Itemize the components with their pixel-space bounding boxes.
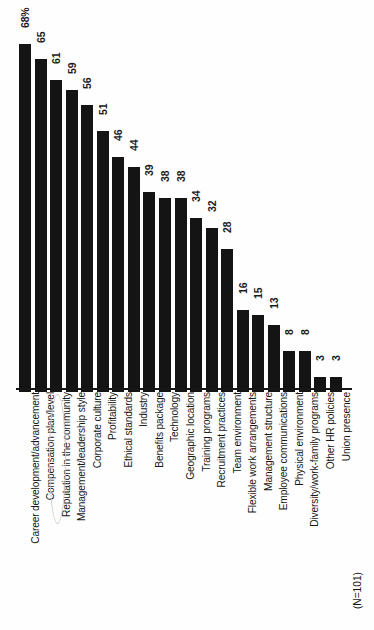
bar-rect: [143, 192, 155, 392]
bar-value-label: 56: [81, 49, 93, 89]
bar: 8: [299, 4, 311, 392]
bar-value-label: 65: [35, 3, 47, 43]
bar-value-label: 38: [159, 142, 171, 182]
category-label: Industry: [138, 392, 150, 552]
category-label: Other HR policies: [325, 392, 337, 552]
bar: 56: [81, 4, 93, 392]
category-label: Management/leadership style: [76, 392, 88, 552]
category-label: Benefits package: [154, 392, 166, 552]
bar-rect: [252, 315, 264, 392]
bar: 32: [206, 4, 218, 392]
plot-area: 68%656159565146443938383432281615138833: [0, 0, 374, 392]
category-label: Team environment: [232, 392, 244, 552]
sample-size-note: (N=101): [352, 572, 363, 630]
bar: 16: [237, 4, 249, 392]
category-label: Technology: [169, 392, 181, 552]
bar-rect: [128, 167, 140, 392]
category-label: Management structure: [263, 392, 275, 552]
bar: 38: [175, 4, 187, 392]
bar: 51: [97, 4, 109, 392]
bar-rect: [190, 218, 202, 392]
category-label: Training programs: [201, 392, 213, 552]
bar: 61: [50, 4, 62, 392]
bar-value-label: 8: [299, 295, 311, 335]
bar-rect: [81, 105, 93, 392]
category-label: Employee communications: [278, 392, 290, 552]
bar-rect: [268, 325, 280, 392]
bar-rect: [299, 351, 311, 392]
bar-value-label: 44: [128, 111, 140, 151]
bar: 65: [35, 4, 47, 392]
bar-chart: 68%656159565146443938383432281615138833 …: [0, 0, 374, 630]
bar-value-label: 61: [50, 24, 62, 64]
bar: 34: [190, 4, 202, 392]
bar: 38: [159, 4, 171, 392]
bar: 68%: [19, 4, 31, 392]
bar: 59: [66, 4, 78, 392]
bar: 3: [330, 4, 342, 392]
category-label: Union presence: [341, 392, 353, 552]
bar-rect: [66, 90, 78, 392]
bar-rect: [35, 59, 47, 392]
bar-rect: [283, 351, 295, 392]
bar-value-label: 34: [190, 162, 202, 202]
category-label: Career development/advancement: [30, 392, 42, 552]
bar: 8: [283, 4, 295, 392]
bar: 39: [143, 4, 155, 392]
bar-rect: [221, 249, 233, 392]
category-label: Flexible work arrangements: [247, 392, 259, 552]
bar-value-label: 28: [221, 193, 233, 233]
bar: 44: [128, 4, 140, 392]
bar-value-label: 39: [143, 136, 155, 176]
bar-value-label: 15: [252, 259, 264, 299]
bar-value-label: 38: [175, 142, 187, 182]
bar-rect: [50, 80, 62, 392]
bar-rect: [112, 157, 124, 392]
bar: 15: [252, 4, 264, 392]
category-label: Diversity/work-family programs: [309, 392, 321, 552]
bar-rect: [206, 228, 218, 392]
bar-value-label: 46: [112, 101, 124, 141]
bar-rect: [159, 198, 171, 392]
category-label: Ethical standards: [123, 392, 135, 552]
category-label: Profitability: [107, 392, 119, 552]
bar-rect: [175, 198, 187, 392]
category-label: Recruitment practices: [216, 392, 228, 552]
bar-value-label: 68%: [19, 0, 31, 28]
bar: 28: [221, 4, 233, 392]
bar-rect: [237, 310, 249, 392]
category-axis-labels: Career development/advancementCompensati…: [0, 392, 374, 572]
x-axis-line: [16, 388, 352, 390]
bar: 13: [268, 4, 280, 392]
bar-rect: [19, 44, 31, 392]
category-label: Reputation in the community: [61, 392, 73, 552]
bar: 46: [112, 4, 124, 392]
category-label: Corporate culture: [92, 392, 104, 552]
category-label: Physical environment: [294, 392, 306, 552]
bar: 3: [314, 4, 326, 392]
bar-value-label: 16: [237, 254, 249, 294]
bar-value-label: 32: [206, 172, 218, 212]
bar-value-label: 13: [268, 269, 280, 309]
bar-value-label: 51: [97, 75, 109, 115]
bar-rect: [97, 131, 109, 392]
bar-value-label: 3: [330, 321, 342, 361]
bar-value-label: 8: [283, 295, 295, 335]
bar-value-label: 3: [314, 321, 326, 361]
category-label: Geographic location: [185, 392, 197, 552]
bar-value-label: 59: [66, 34, 78, 74]
category-label: Compensation plan/level: [45, 392, 57, 552]
